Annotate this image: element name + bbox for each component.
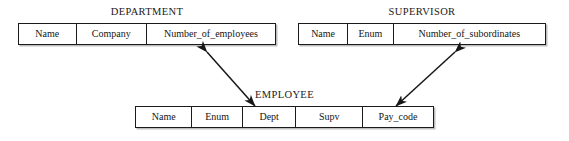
entity-title-department: DEPARTMENT (18, 6, 276, 17)
attribute-cell-supervisor-name[interactable]: Name (299, 24, 348, 44)
attribute-cell-department-company[interactable]: Company (77, 24, 147, 44)
attribute-cell-employee-pay-code[interactable]: Pay_code (363, 107, 433, 127)
attribute-cell-department-number-of-employees[interactable]: Number_of_employees (147, 24, 275, 44)
entity-title-supervisor: SUPERVISOR (298, 6, 546, 17)
attribute-row-department: Name Company Number_of_employees (18, 23, 276, 45)
entity-title-employee: EMPLOYEE (135, 89, 434, 100)
attribute-row-supervisor: Name Enum Number_of_subordinates (298, 23, 546, 45)
attribute-cell-employee-supv[interactable]: Supv (296, 107, 363, 127)
attribute-cell-employee-dept[interactable]: Dept (243, 107, 296, 127)
attribute-cell-employee-name[interactable]: Name (136, 107, 192, 127)
attribute-cell-supervisor-enum[interactable]: Enum (348, 24, 394, 44)
diagram-canvas: DEPARTMENT Name Company Number_of_employ… (0, 0, 569, 141)
attribute-cell-supervisor-number-of-subordinates[interactable]: Number_of_subordinates (394, 24, 545, 44)
attribute-cell-employee-enum[interactable]: Enum (192, 107, 242, 127)
attribute-cell-department-name[interactable]: Name (19, 24, 77, 44)
attribute-row-employee: Name Enum Dept Supv Pay_code (135, 106, 434, 128)
